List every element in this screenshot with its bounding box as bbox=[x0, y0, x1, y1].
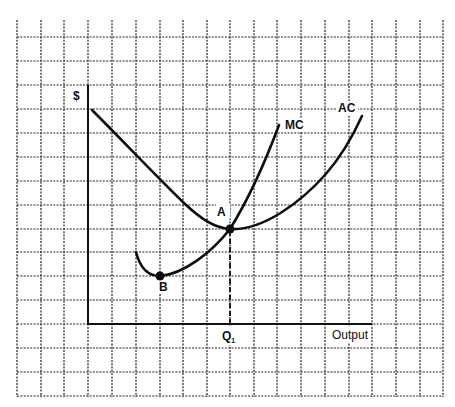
x-axis-label: Output bbox=[332, 328, 369, 342]
point-b-label: B bbox=[159, 280, 168, 294]
point-a-label: A bbox=[217, 205, 226, 219]
cost-curve-diagram: $ MC AC A B Q1 Output bbox=[0, 0, 455, 407]
q1-label-main: Q bbox=[222, 329, 231, 343]
mc-label: MC bbox=[285, 118, 304, 132]
mc-curve bbox=[136, 125, 279, 276]
q1-label-subscript: 1 bbox=[231, 337, 235, 344]
y-axis-label: $ bbox=[73, 89, 80, 103]
point-a-marker bbox=[226, 225, 235, 234]
ac-label: AC bbox=[338, 101, 356, 115]
